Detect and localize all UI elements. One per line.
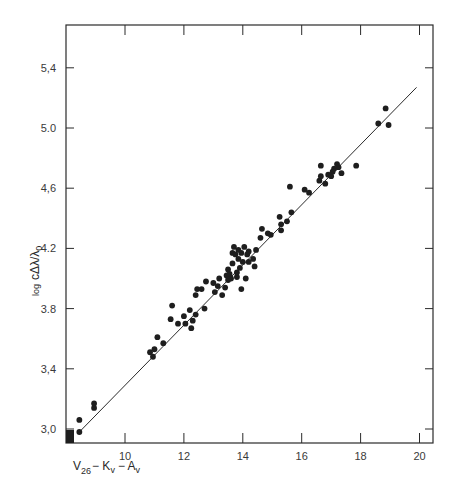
data-point	[230, 261, 236, 267]
data-point	[154, 334, 160, 340]
data-point	[76, 429, 82, 435]
data-point	[288, 209, 294, 215]
x-tick-label: 12	[178, 450, 190, 462]
data-point	[203, 279, 209, 285]
x-tick-label: 20	[413, 450, 425, 462]
data-point	[169, 303, 175, 309]
data-point	[168, 316, 174, 322]
y-tick-label: 3,4	[41, 363, 56, 375]
data-point	[241, 244, 247, 250]
x-tick-label: 18	[354, 450, 366, 462]
data-point	[318, 173, 324, 179]
data-point	[199, 286, 205, 292]
data-point	[216, 276, 222, 282]
data-point	[287, 184, 293, 190]
data-point	[243, 276, 249, 282]
data-point	[375, 121, 381, 127]
data-point	[150, 354, 156, 360]
data-point	[353, 163, 359, 169]
axis-ticks	[66, 25, 433, 443]
data-point	[181, 313, 187, 319]
data-point	[278, 227, 284, 233]
data-point	[228, 276, 234, 282]
data-point	[190, 318, 196, 324]
data-point	[252, 264, 258, 270]
data-point	[253, 247, 259, 253]
data-point	[202, 306, 208, 312]
data-point	[212, 289, 218, 295]
plot-frame	[66, 25, 433, 443]
data-point	[187, 307, 193, 313]
y-tick-label: 3,0	[41, 423, 56, 435]
data-point	[240, 259, 246, 265]
data-point	[222, 285, 228, 291]
data-point	[336, 164, 342, 170]
data-point	[193, 292, 199, 298]
data-point	[322, 181, 328, 187]
data-point	[284, 218, 290, 224]
data-point	[318, 163, 324, 169]
data-point	[91, 405, 97, 411]
data-point	[238, 286, 244, 292]
data-point	[278, 221, 284, 227]
plot-border	[66, 25, 433, 443]
y-tick-label: 5.0	[41, 122, 56, 134]
data-point	[76, 417, 82, 423]
y-tick-label: 3.8	[41, 303, 56, 315]
x-tick-label: 16	[296, 450, 308, 462]
data-point	[175, 321, 181, 327]
data-point	[193, 312, 199, 318]
data-point	[238, 250, 244, 256]
data-point	[259, 226, 265, 232]
x-axis-label: V26− Kv− Av	[73, 459, 141, 476]
data-point	[383, 106, 389, 112]
y-tick-label: 5,4	[41, 62, 56, 74]
data-point	[306, 190, 312, 196]
origin-marker	[66, 430, 74, 443]
data-point	[339, 170, 345, 176]
y-axis-label: logcΔλ/λ0	[28, 246, 44, 296]
data-point	[219, 292, 225, 298]
data-point	[182, 321, 188, 327]
data-point	[188, 325, 194, 331]
scatter-chart: 101214161820 3,03,43.84.24,65.05,4 V26− …	[0, 0, 459, 496]
data-points	[76, 106, 391, 435]
data-point	[160, 340, 166, 346]
data-point	[215, 283, 221, 289]
data-point	[152, 346, 158, 352]
data-point	[386, 122, 392, 128]
data-point	[258, 235, 264, 241]
data-point	[268, 232, 274, 238]
data-point	[277, 214, 283, 220]
x-tick-label: 14	[237, 450, 249, 462]
data-point	[250, 256, 256, 262]
y-tick-label: 4,6	[41, 182, 56, 194]
data-point	[246, 249, 252, 255]
x-tick-labels: 101214161820	[119, 450, 426, 462]
data-point	[237, 265, 243, 271]
